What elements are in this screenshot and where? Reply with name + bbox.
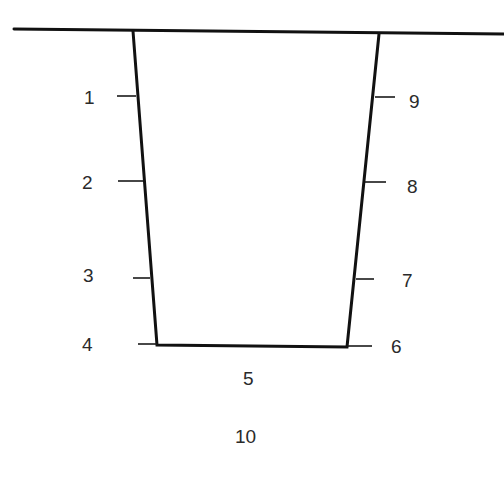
label-6: 6 <box>391 336 402 357</box>
ground-surface-line <box>14 29 504 34</box>
label-2: 2 <box>82 172 93 193</box>
label-1: 1 <box>84 87 95 108</box>
label-8: 8 <box>407 176 418 197</box>
label-9: 9 <box>409 91 420 112</box>
label-3: 3 <box>83 265 94 286</box>
trench-outline <box>133 31 379 347</box>
label-4: 4 <box>82 334 93 355</box>
label-5: 5 <box>243 368 254 389</box>
trench-diagram: 1 2 3 4 9 8 7 6 5 10 <box>0 0 504 478</box>
label-7: 7 <box>402 270 413 291</box>
label-10: 10 <box>235 426 256 447</box>
